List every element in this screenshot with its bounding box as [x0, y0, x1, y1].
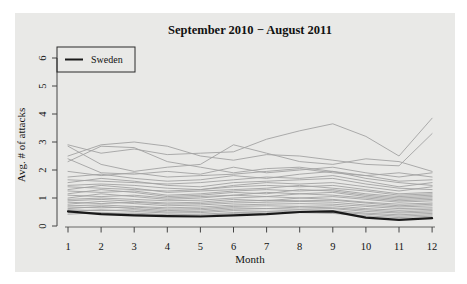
- figure-panel: September 2010 − August 2011 0123456 123…: [15, 13, 455, 272]
- page: { "figure": { "title": "September 2010 −…: [0, 0, 467, 284]
- y-tick-label: 0: [37, 223, 48, 228]
- y-axis-title: Avg. # of attacks: [15, 108, 27, 182]
- line-other-03: [68, 145, 432, 172]
- x-axis-title: Month: [235, 253, 265, 265]
- line-other-05: [68, 159, 432, 177]
- y-tick-label: 4: [37, 111, 48, 117]
- x-tick-label: 8: [297, 241, 302, 252]
- legend-label: Sweden: [91, 54, 123, 65]
- line-other-01: [68, 118, 432, 156]
- x-tick-label: 5: [198, 241, 203, 252]
- x-tick-label: 9: [330, 241, 335, 252]
- y-tick-label: 1: [37, 195, 48, 200]
- y-tick-label: 3: [37, 139, 48, 144]
- x-tick-label: 1: [65, 241, 70, 252]
- x-tick-label: 2: [98, 241, 103, 252]
- y-tick-label: 6: [37, 55, 48, 60]
- x-tick-label: 10: [361, 241, 372, 252]
- y-tick-label: 2: [37, 167, 48, 172]
- x-axis: 123456789101112: [65, 227, 437, 252]
- chart-title: September 2010 − August 2011: [168, 23, 332, 37]
- plot-svg: September 2010 − August 2011 0123456 123…: [15, 13, 455, 272]
- x-tick-label: 3: [132, 241, 137, 252]
- y-axis: 0123456: [37, 55, 57, 228]
- line-other-02: [68, 134, 432, 166]
- x-tick-label: 6: [231, 241, 236, 252]
- x-tick-label: 7: [264, 241, 269, 252]
- x-tick-label: 4: [165, 241, 171, 252]
- x-tick-label: 12: [427, 241, 438, 252]
- y-tick-label: 5: [37, 83, 48, 88]
- x-tick-label: 11: [394, 241, 404, 252]
- legend: Sweden: [57, 47, 135, 72]
- series-lines: [68, 118, 432, 220]
